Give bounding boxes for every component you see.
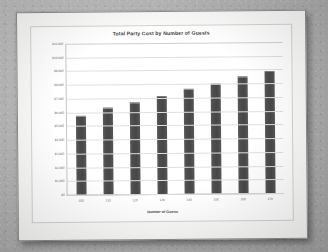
bar-slot: 170: [255, 42, 283, 193]
y-axis-tick-label: $3,000: [55, 152, 64, 156]
x-axis-tick-label: 170: [267, 197, 272, 201]
plot-area: 100110120130140150160170 $11,000$10,000$…: [65, 42, 283, 196]
bar[interactable]: [237, 76, 248, 193]
bar-slot: 100: [66, 44, 94, 195]
x-axis-tick-label: 110: [106, 198, 111, 202]
bar-slot: 110: [93, 43, 121, 194]
bar-slot: 150: [201, 42, 229, 193]
x-axis-title: Number of Guests: [33, 209, 293, 215]
x-axis-tick-label: 100: [78, 198, 83, 202]
x-axis-tick-label: 160: [240, 197, 245, 201]
y-axis-tick-label: $1,000: [55, 179, 64, 183]
y-axis-tick-label: $6,000: [54, 110, 63, 114]
bar-slot: 130: [147, 43, 175, 194]
x-axis-tick-label: 120: [132, 198, 137, 202]
y-axis-tick-label: $5,000: [55, 124, 64, 128]
bar[interactable]: [75, 115, 86, 194]
y-axis-tick-label: $4,000: [55, 138, 64, 142]
x-axis-tick-label: 140: [186, 197, 191, 201]
y-axis-tick-label: $9,000: [54, 69, 63, 73]
x-axis-tick-label: 130: [159, 197, 164, 201]
y-axis-tick-label: $7,000: [54, 97, 63, 101]
chart-container: Total Party Cost by Number of Guests 100…: [30, 24, 294, 223]
bar[interactable]: [183, 89, 194, 194]
bar-slot: 120: [120, 43, 148, 194]
y-axis-tick-label: $8,000: [54, 83, 63, 87]
y-axis-tick-label: $2,000: [55, 165, 64, 169]
bar-slot: 140: [174, 43, 202, 194]
bar-series: 100110120130140150160170: [66, 42, 283, 195]
bar[interactable]: [264, 71, 275, 193]
y-axis-tick-label: $11,000: [52, 42, 63, 46]
printed-page: Total Party Cost by Number of Guests 100…: [16, 10, 308, 242]
bar-slot: 160: [228, 42, 256, 193]
x-axis-tick-label: 150: [213, 197, 218, 201]
photo-scene: Total Party Cost by Number of Guests 100…: [0, 0, 328, 252]
y-axis-tick-label: $0: [61, 193, 64, 197]
y-axis-tick-label: $10,000: [52, 56, 63, 60]
chart-title: Total Party Cost by Number of Guests: [31, 29, 291, 37]
